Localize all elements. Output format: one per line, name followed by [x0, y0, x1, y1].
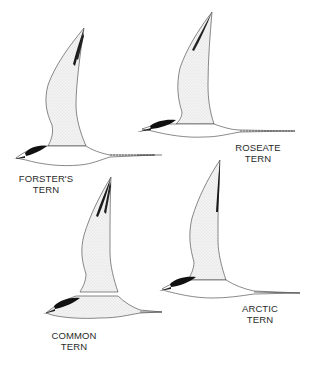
arctic-wing — [188, 160, 226, 280]
arctic-tern-label-line1: ARCTIC — [236, 304, 284, 315]
common-body — [46, 296, 162, 318]
roseate-tern-label-line1: ROSEATE — [232, 143, 284, 154]
common-tern-label-line2: TERN — [44, 342, 104, 353]
roseate-tern-label: ROSEATE TERN — [232, 143, 284, 164]
arctic-tern-label-line2: TERN — [236, 315, 284, 326]
forsters-tern-label-line2: TERN — [14, 185, 78, 196]
common-tern-label: COMMON TERN — [44, 331, 104, 352]
forsters-tern-label: FORSTER'S TERN — [14, 174, 78, 195]
common-wing — [80, 177, 118, 292]
roseate-wing — [176, 12, 214, 124]
roseate-tern-label-line2: TERN — [232, 154, 284, 165]
tern-comparison-figure: FORSTER'S TERN ROSEATE TERN COMMON TERN … — [0, 0, 313, 365]
arctic-tern-label: ARCTIC TERN — [236, 304, 284, 325]
forsters-tern-illustration — [14, 28, 155, 166]
roseate-body — [142, 124, 295, 137]
roseate-tern-illustration — [137, 12, 295, 155]
common-tern-label-line1: COMMON — [44, 331, 104, 342]
forsters-tern-label-line1: FORSTER'S — [14, 174, 78, 185]
arctic-tern-illustration — [159, 160, 300, 298]
common-tern-illustration — [43, 177, 162, 318]
